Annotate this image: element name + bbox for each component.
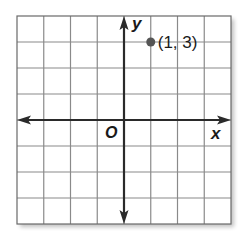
coordinate-plane: y x O (1, 3) — [0, 0, 250, 234]
x-axis-label: x — [210, 124, 222, 143]
y-axis-label: y — [131, 14, 143, 33]
point-label: (1, 3) — [158, 33, 198, 52]
plotted-point — [146, 38, 155, 47]
origin-label: O — [105, 124, 118, 141]
coordinate-plane-svg: y x O (1, 3) — [0, 0, 250, 234]
